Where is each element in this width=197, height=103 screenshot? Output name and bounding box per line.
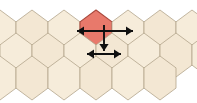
hexagon-layer <box>0 10 197 100</box>
hex-grid-canvas <box>0 0 197 103</box>
hex-grid-diagram <box>0 0 197 103</box>
